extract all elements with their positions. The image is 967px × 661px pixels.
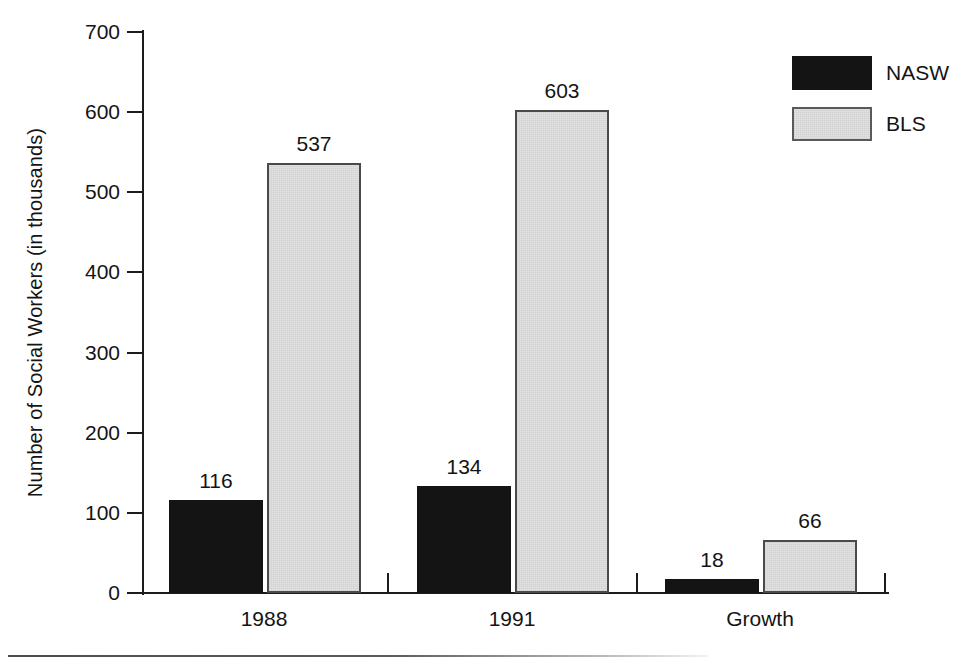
x-axis-tick <box>142 573 144 593</box>
y-axis-line <box>142 30 144 595</box>
bar-nasw-1991 <box>417 486 511 593</box>
black-swatch <box>792 56 872 90</box>
y-axis-tick-label: 600 <box>64 101 120 122</box>
bar-value-label: 116 <box>149 470 283 491</box>
x-axis-category-1988: 1988 <box>184 607 344 631</box>
y-axis-tick <box>127 271 143 273</box>
bar-chart-figure: Number of Social Workers (in thousands) … <box>0 0 967 661</box>
x-axis-tick <box>636 573 638 593</box>
light-gray-swatch <box>792 107 872 141</box>
y-axis-tick-label-wrap: 600 <box>58 101 120 122</box>
y-axis-tick-label: 0 <box>64 582 120 603</box>
y-axis-tick-label: 700 <box>64 21 120 42</box>
y-axis-tick <box>127 111 143 113</box>
legend-label: NASW <box>886 61 949 85</box>
y-axis-tick-label-wrap: 200 <box>58 422 120 443</box>
y-axis-tick-label-wrap: 300 <box>58 342 120 363</box>
bottom-horizontal-rule <box>8 655 708 657</box>
bar-value-label: 18 <box>645 549 779 570</box>
x-axis-tick <box>884 573 886 593</box>
y-axis-tick <box>127 352 143 354</box>
y-axis-tick-label: 500 <box>64 181 120 202</box>
y-axis-tick-label: 300 <box>64 342 120 363</box>
bar-nasw-growth <box>665 579 759 593</box>
y-axis-tick-label: 400 <box>64 261 120 282</box>
x-axis-category-1991: 1991 <box>432 607 592 631</box>
legend-item-nasw: NASW <box>792 56 962 90</box>
y-axis-tick-label-wrap: 500 <box>58 181 120 202</box>
bar-nasw-1988 <box>169 500 263 593</box>
legend-item-bls: BLS <box>792 107 962 141</box>
y-axis-tick-label-wrap: 400 <box>58 261 120 282</box>
bar-value-label: 134 <box>397 456 531 477</box>
y-axis-tick <box>127 31 143 33</box>
y-axis-tick-label-wrap: 100 <box>58 502 120 523</box>
bar-bls-1988 <box>267 163 361 593</box>
bar-value-label: 603 <box>495 80 629 101</box>
y-axis-tick <box>127 432 143 434</box>
bar-value-label: 537 <box>247 133 381 154</box>
bar-value-label: 66 <box>743 510 877 531</box>
y-axis-tick-label-wrap: 700 <box>58 21 120 42</box>
y-axis-tick-label-wrap: 0 <box>58 582 120 603</box>
bar-bls-growth <box>763 540 857 593</box>
legend-label: BLS <box>886 112 926 136</box>
chart-legend: NASWBLS <box>792 56 962 148</box>
y-axis-tick <box>127 191 143 193</box>
y-axis-tick-label: 100 <box>64 502 120 523</box>
y-axis-tick <box>127 592 143 594</box>
y-axis-tick-label: 200 <box>64 422 120 443</box>
x-axis-category-growth: Growth <box>680 607 840 631</box>
bar-bls-1991 <box>515 110 609 593</box>
y-axis-title: Number of Social Workers (in thousands) <box>22 32 48 593</box>
y-axis-tick <box>127 512 143 514</box>
x-axis-tick <box>387 573 389 593</box>
